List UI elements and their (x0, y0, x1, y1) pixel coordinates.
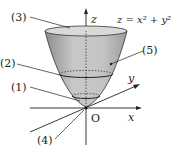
origin-label: O (91, 112, 100, 125)
x-arrow-icon (136, 106, 142, 110)
label-5: (5) (142, 44, 158, 57)
equation: z = x² + y² (116, 14, 171, 25)
z-arrow-icon (84, 8, 88, 14)
label-1: (1) (11, 81, 27, 94)
leader-3 (30, 17, 70, 28)
label-2: (2) (0, 57, 16, 70)
z-axis-label: z (90, 13, 97, 26)
leader-4 (55, 110, 84, 139)
y-axis-label: y (127, 72, 135, 85)
paraboloid-diagram: (3) (2) (1) (4) (5) z y x O z = x² + y² (0, 0, 183, 153)
label-4: (4) (37, 134, 53, 147)
origin-point (84, 106, 87, 109)
leader-2 (17, 64, 60, 75)
x-axis-label: x (128, 111, 135, 124)
label-3: (3) (11, 11, 27, 24)
point-5 (110, 63, 113, 66)
